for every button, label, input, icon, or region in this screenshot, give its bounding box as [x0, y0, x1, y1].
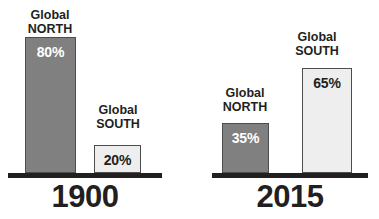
- bar-south-1900: 20%: [94, 145, 141, 173]
- bar-south-2015: 65%: [302, 68, 352, 173]
- bar-group-label-line1: Global: [205, 86, 285, 100]
- bar-group-label-south-2015: Global SOUTH: [277, 30, 357, 58]
- bar-group-label-line1: Global: [78, 103, 158, 117]
- chart-figure: Global NORTH 80% Global SOUTH 20% 1900 G…: [0, 0, 379, 219]
- bar-group-label-north-2015: Global NORTH: [205, 86, 285, 114]
- bar-north-2015: 35%: [222, 123, 269, 173]
- bar-group-label-north-1900: Global NORTH: [10, 8, 90, 36]
- year-label-2015: 2015: [215, 180, 365, 214]
- axis-baseline-1900: [8, 173, 162, 178]
- axis-baseline-2015: [212, 173, 368, 178]
- bar-group-label-line2: SOUTH: [277, 44, 357, 58]
- bar-group-label-line2: NORTH: [10, 22, 90, 36]
- bar-value-south-1900: 20%: [95, 152, 140, 168]
- bar-group-label-line2: SOUTH: [78, 117, 158, 131]
- bar-value-north-2015: 35%: [223, 130, 268, 146]
- bar-north-1900: 80%: [25, 37, 76, 173]
- bar-group-label-line1: Global: [10, 8, 90, 22]
- bar-group-label-south-1900: Global SOUTH: [78, 103, 158, 131]
- bar-value-north-1900: 80%: [26, 44, 75, 60]
- bar-value-south-2015: 65%: [303, 75, 351, 91]
- bar-group-label-line2: NORTH: [205, 100, 285, 114]
- chart-panel-2015: Global NORTH 35% Global SOUTH 65% 2015: [190, 0, 379, 219]
- year-label-1900: 1900: [10, 180, 160, 214]
- chart-panel-1900: Global NORTH 80% Global SOUTH 20% 1900: [0, 0, 190, 219]
- bar-group-label-line1: Global: [277, 30, 357, 44]
